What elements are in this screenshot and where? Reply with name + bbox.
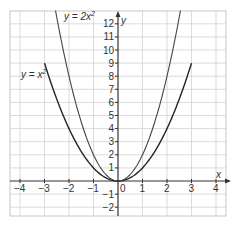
x-tick-label: −3	[39, 183, 51, 194]
x-axis-arrow-icon	[225, 179, 231, 184]
x-tick-label: −1	[88, 183, 100, 194]
x-axis-label: x	[215, 169, 222, 180]
y-tick-label: 8	[108, 71, 114, 82]
y-tick-label: 6	[108, 97, 114, 108]
y-tick-label: 2	[108, 149, 114, 160]
y-tick-label: −2	[103, 202, 115, 213]
x-tick-label: 1	[140, 183, 146, 194]
y-tick-label: 1	[108, 162, 114, 173]
y-tick-label: 7	[108, 84, 114, 95]
x-tick-label: 3	[189, 183, 195, 194]
y-tick-label: 11	[104, 31, 115, 42]
y-tick-label: 9	[108, 58, 114, 69]
y-tick-label: 4	[108, 123, 114, 134]
y-tick-label: 5	[108, 110, 114, 121]
curve-label-2x-squared: y = 2x2	[63, 10, 95, 22]
y-tick-label: 10	[103, 45, 115, 56]
x-tick-label: 2	[164, 183, 170, 194]
y-tick-label: −1	[103, 189, 115, 200]
y-axis-label: y	[120, 15, 127, 26]
y-tick-label: 3	[108, 136, 114, 147]
x-tick-label: −4	[14, 183, 26, 194]
x-tick-label: −2	[63, 183, 75, 194]
parabola-chart: −4−3−2−101234−2−1123456789101112 y = x2 …	[0, 0, 236, 225]
x-tick-label: 0	[120, 183, 126, 194]
y-tick-label: 12	[103, 18, 115, 29]
x-tick-label: 4	[213, 183, 219, 194]
